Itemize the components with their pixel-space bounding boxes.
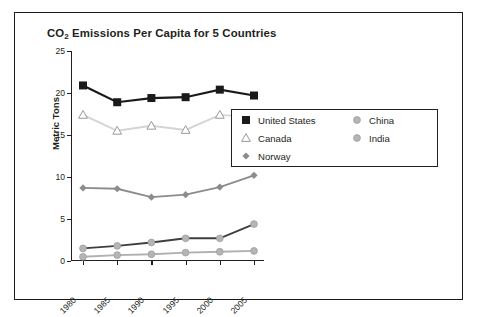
- y-tick-label: 0: [60, 256, 65, 266]
- legend-marker-circle-filled-icon: [350, 114, 364, 126]
- x-tick-mark: [220, 261, 221, 265]
- legend-marker-diamond-filled-icon: [239, 150, 253, 162]
- data-point-marker: [80, 245, 87, 252]
- series-norway: [79, 172, 257, 201]
- series-line: [83, 115, 254, 131]
- chart-title-main: CO: [47, 27, 64, 39]
- series-line: [83, 251, 254, 257]
- chart-title-rest: Emissions Per Capita for 5 Countries: [69, 27, 277, 39]
- data-point-marker: [182, 93, 190, 101]
- y-tick-label: 15: [55, 130, 65, 140]
- chart-legend: United StatesCanadaNorwayChinaIndia: [231, 109, 438, 167]
- data-point-marker: [250, 172, 257, 179]
- x-tick-mark: [117, 261, 118, 265]
- x-tick-label: 1990: [126, 295, 147, 316]
- data-point-marker: [114, 185, 121, 192]
- data-point-marker: [242, 116, 250, 124]
- data-point-marker: [113, 98, 121, 106]
- data-point-marker: [182, 235, 189, 242]
- x-tick-label: 1985: [92, 295, 113, 316]
- y-tick-label: 10: [55, 172, 65, 182]
- data-point-marker: [114, 242, 121, 249]
- legend-item-norway[interactable]: Norway: [239, 150, 291, 162]
- data-point-marker: [354, 135, 361, 142]
- y-tick-label: 5: [60, 214, 65, 224]
- series-line: [83, 224, 254, 248]
- data-point-marker: [182, 191, 189, 198]
- chart-title: CO2 Emissions Per Capita for 5 Countries: [47, 27, 276, 39]
- series-line: [83, 175, 254, 197]
- legend-item-united-states[interactable]: United States: [239, 114, 316, 126]
- data-point-marker: [242, 152, 249, 159]
- series-india: [80, 248, 258, 261]
- data-point-marker: [251, 248, 258, 255]
- data-point-marker: [216, 248, 223, 255]
- data-point-marker: [148, 239, 155, 246]
- series-china: [80, 221, 258, 252]
- x-tick-mark: [186, 261, 187, 265]
- legend-item-label: Norway: [258, 151, 291, 162]
- data-point-marker: [216, 183, 223, 190]
- legend-marker-circle-filled-icon: [350, 132, 364, 144]
- x-tick-mark: [151, 261, 152, 265]
- data-point-marker: [79, 110, 88, 118]
- data-point-marker: [216, 86, 224, 94]
- data-point-marker: [354, 117, 361, 124]
- data-point-marker: [242, 134, 251, 142]
- legend-item-label: China: [369, 115, 394, 126]
- x-tick-mark: [83, 261, 84, 265]
- legend-marker-triangle-open-icon: [239, 132, 253, 144]
- x-tick-label: 1980: [58, 295, 79, 316]
- data-point-marker: [148, 194, 155, 201]
- data-point-marker: [79, 81, 87, 89]
- data-point-marker: [79, 184, 86, 191]
- y-tick-label: 25: [55, 46, 65, 56]
- data-point-marker: [80, 253, 87, 260]
- x-tick-mark: [254, 261, 255, 265]
- legend-item-label: United States: [258, 115, 316, 126]
- y-axis-title: Metric Tons: [50, 97, 61, 150]
- y-tick-label: 20: [55, 88, 65, 98]
- data-point-marker: [148, 251, 155, 258]
- data-point-marker: [147, 94, 155, 102]
- x-tick-label: 2005: [229, 295, 250, 316]
- data-point-marker: [250, 92, 258, 100]
- data-point-marker: [114, 252, 121, 259]
- legend-item-india[interactable]: India: [350, 132, 390, 144]
- data-point-marker: [216, 235, 223, 242]
- legend-item-label: India: [369, 133, 390, 144]
- chart-title-subscript: 2: [64, 32, 69, 41]
- x-tick-label: 2000: [194, 295, 215, 316]
- chart-figure: CO2 Emissions Per Capita for 5 Countries…: [14, 12, 463, 300]
- series-line: [83, 85, 254, 102]
- data-point-marker: [182, 249, 189, 256]
- y-tick-mark: [67, 261, 71, 262]
- series-united-states: [79, 81, 258, 106]
- legend-marker-square-filled-icon: [239, 114, 253, 126]
- legend-item-label: Canada: [258, 133, 292, 144]
- legend-item-china[interactable]: China: [350, 114, 394, 126]
- data-point-marker: [251, 221, 258, 228]
- legend-item-canada[interactable]: Canada: [239, 132, 292, 144]
- x-tick-label: 1995: [160, 295, 181, 316]
